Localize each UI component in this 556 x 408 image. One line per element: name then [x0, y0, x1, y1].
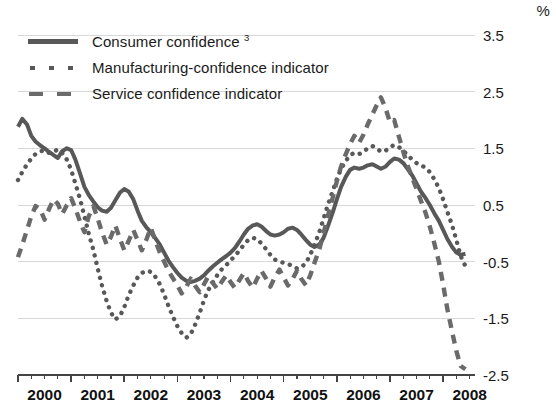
- y-tick-label: 2.5: [483, 83, 543, 100]
- series-line-dashed: [18, 97, 465, 369]
- confidence-indicators-chart: % 3.52.51.50.5-0.5-1.5-2.5 2000200120022…: [0, 0, 556, 408]
- legend-footnote-marker: 3: [244, 32, 249, 43]
- series-line-solid: [18, 119, 465, 282]
- x-tick-label: 2004: [240, 386, 274, 404]
- legend-item-dotted: Manufacturing-confidence indicator: [28, 59, 329, 76]
- x-tick-label: 2002: [134, 386, 168, 404]
- legend-key-dotted: [28, 62, 78, 74]
- x-tick-label: 2005: [293, 386, 327, 404]
- x-tick-label: 2000: [27, 386, 61, 404]
- legend-item-label: Manufacturing-confidence indicator: [92, 59, 329, 76]
- y-tick-label: -1.5: [483, 310, 543, 327]
- y-tick-label: -0.5: [483, 253, 543, 270]
- y-tick-label: 0.5: [483, 197, 543, 214]
- x-tick-label: 2007: [399, 386, 433, 404]
- legend-item-label: Service confidence indicator: [92, 85, 282, 102]
- legend-item-dashed: Service confidence indicator: [28, 85, 329, 102]
- legend-item-label: Consumer confidence 3: [92, 32, 250, 50]
- x-tick-label: 2006: [346, 386, 380, 404]
- legend-key-dashed: [28, 88, 78, 100]
- y-tick-label: -2.5: [483, 367, 543, 384]
- x-tick-label: 2003: [187, 386, 221, 404]
- legend-key-solid: [28, 35, 78, 47]
- chart-legend: Consumer confidence 3Manufacturing-confi…: [28, 32, 329, 102]
- x-tick-label: 2008: [452, 386, 486, 404]
- y-tick-label: 3.5: [483, 27, 543, 44]
- y-tick-label: 1.5: [483, 140, 543, 157]
- x-tick-label: 2001: [80, 386, 114, 404]
- legend-item-solid: Consumer confidence 3: [28, 32, 329, 50]
